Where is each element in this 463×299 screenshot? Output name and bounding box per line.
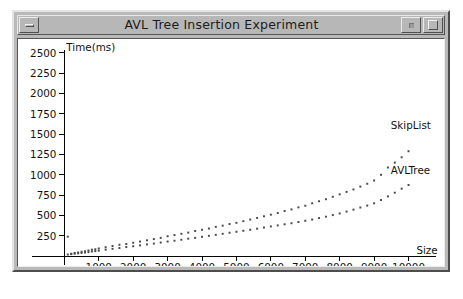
data-point bbox=[118, 247, 120, 249]
data-point bbox=[394, 192, 396, 194]
restore-button[interactable] bbox=[401, 17, 421, 33]
data-point bbox=[284, 223, 286, 225]
data-point bbox=[215, 226, 217, 228]
data-point bbox=[408, 184, 410, 186]
data-point bbox=[125, 246, 127, 248]
data-point bbox=[339, 193, 341, 195]
y-tick-label: 750 bbox=[37, 189, 57, 201]
plot-canvas: 2505007501000125015001750200022502500 10… bbox=[17, 38, 445, 267]
data-point bbox=[242, 230, 244, 232]
data-point bbox=[235, 231, 237, 233]
data-point bbox=[112, 248, 114, 250]
x-tick-label: 9000 bbox=[361, 261, 387, 266]
data-point bbox=[105, 246, 107, 248]
data-point bbox=[208, 235, 210, 237]
data-point bbox=[167, 241, 169, 243]
application-window: AVL Tree Insertion Experiment 2505007501… bbox=[12, 10, 450, 272]
data-point bbox=[67, 254, 69, 256]
data-point bbox=[339, 212, 341, 214]
data-point bbox=[208, 228, 210, 230]
data-point bbox=[256, 228, 258, 230]
y-axis-title: Time(ms) bbox=[65, 41, 115, 53]
data-point bbox=[291, 222, 293, 224]
series-label-skiplist: SkipList bbox=[391, 119, 431, 131]
data-point bbox=[311, 202, 313, 204]
data-point bbox=[373, 180, 375, 182]
y-axis-ticks: 2505007501000125015001750200022502500 bbox=[30, 47, 64, 242]
series-labels: SkipListAVLTree bbox=[391, 119, 431, 176]
data-point bbox=[256, 217, 258, 219]
data-point bbox=[401, 188, 403, 190]
data-point bbox=[318, 217, 320, 219]
data-point bbox=[346, 191, 348, 193]
data-point bbox=[84, 252, 86, 254]
data-point bbox=[112, 245, 114, 247]
x-axis-ticks: 1000200030004000500060007000800090001000… bbox=[86, 256, 425, 266]
data-point bbox=[380, 199, 382, 201]
data-point bbox=[263, 215, 265, 217]
data-point bbox=[74, 253, 76, 255]
y-tick-label: 1250 bbox=[30, 148, 56, 160]
data-point bbox=[284, 210, 286, 212]
scatter-plot: 2505007501000125015001750200022502500 10… bbox=[18, 39, 444, 266]
data-point bbox=[132, 245, 134, 247]
y-tick-label: 2250 bbox=[30, 67, 56, 79]
data-point bbox=[380, 174, 382, 176]
x-tick-label: 5000 bbox=[223, 261, 249, 266]
data-point bbox=[325, 216, 327, 218]
data-point bbox=[81, 252, 83, 254]
minimize-icon bbox=[25, 24, 34, 27]
data-point bbox=[249, 219, 251, 221]
y-tick-label: 500 bbox=[37, 209, 57, 221]
maximize-button[interactable] bbox=[423, 17, 443, 33]
data-point bbox=[373, 202, 375, 204]
data-point bbox=[222, 225, 224, 227]
data-point bbox=[160, 237, 162, 239]
data-point bbox=[194, 230, 196, 232]
data-point bbox=[201, 236, 203, 238]
data-point bbox=[153, 238, 155, 240]
data-point bbox=[318, 200, 320, 202]
data-point bbox=[98, 247, 100, 249]
data-point bbox=[352, 188, 354, 190]
data-point bbox=[387, 195, 389, 197]
axes bbox=[32, 50, 436, 265]
data-point bbox=[187, 238, 189, 240]
data-point bbox=[277, 212, 279, 214]
data-point bbox=[297, 221, 299, 223]
title-bar: AVL Tree Insertion Experiment bbox=[17, 15, 445, 35]
data-point bbox=[180, 239, 182, 241]
data-point bbox=[70, 253, 72, 255]
data-point bbox=[194, 237, 196, 239]
data-point bbox=[139, 241, 141, 243]
data-point bbox=[277, 224, 279, 226]
data-point bbox=[98, 250, 100, 252]
x-tick-label: 2000 bbox=[120, 261, 146, 266]
data-point bbox=[160, 242, 162, 244]
y-tick-label: 250 bbox=[37, 230, 57, 242]
series-label-avltree: AVLTree bbox=[391, 164, 430, 176]
data-point bbox=[359, 186, 361, 188]
data-point bbox=[263, 227, 265, 229]
x-tick-label: 6000 bbox=[258, 261, 284, 266]
data-point bbox=[291, 208, 293, 210]
data-point bbox=[242, 220, 244, 222]
data-point bbox=[201, 229, 203, 231]
data-point bbox=[222, 233, 224, 235]
x-axis-title: Size bbox=[416, 244, 437, 256]
data-point bbox=[174, 240, 176, 242]
data-point bbox=[325, 198, 327, 200]
data-point bbox=[167, 235, 169, 237]
x-tick-label: 8000 bbox=[327, 261, 353, 266]
window-title: AVL Tree Insertion Experiment bbox=[43, 17, 400, 33]
data-point bbox=[311, 219, 313, 221]
data-point bbox=[346, 211, 348, 213]
minimize-button[interactable] bbox=[19, 17, 39, 33]
data-point bbox=[366, 183, 368, 185]
data-point bbox=[125, 243, 127, 245]
data-point bbox=[105, 249, 107, 251]
data-point bbox=[132, 242, 134, 244]
x-tick-label: 3000 bbox=[154, 261, 180, 266]
data-point bbox=[180, 233, 182, 235]
data-point bbox=[174, 234, 176, 236]
